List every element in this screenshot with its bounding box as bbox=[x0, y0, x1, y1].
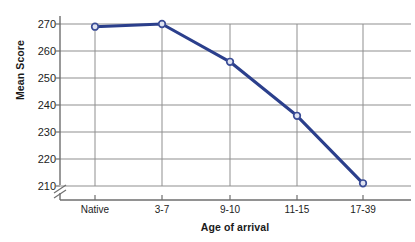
horizontal-gridlines bbox=[60, 24, 411, 186]
line-chart: Mean Score Age of arrival 270 260 250 24… bbox=[0, 0, 415, 242]
x-axis-ticks bbox=[95, 195, 363, 200]
data-point bbox=[294, 113, 301, 120]
data-point bbox=[227, 59, 234, 66]
data-point bbox=[92, 23, 99, 30]
plot-area bbox=[0, 0, 415, 242]
data-markers bbox=[92, 21, 367, 187]
data-point bbox=[360, 180, 367, 187]
y-axis-ticks bbox=[55, 24, 60, 186]
data-point bbox=[159, 21, 166, 28]
